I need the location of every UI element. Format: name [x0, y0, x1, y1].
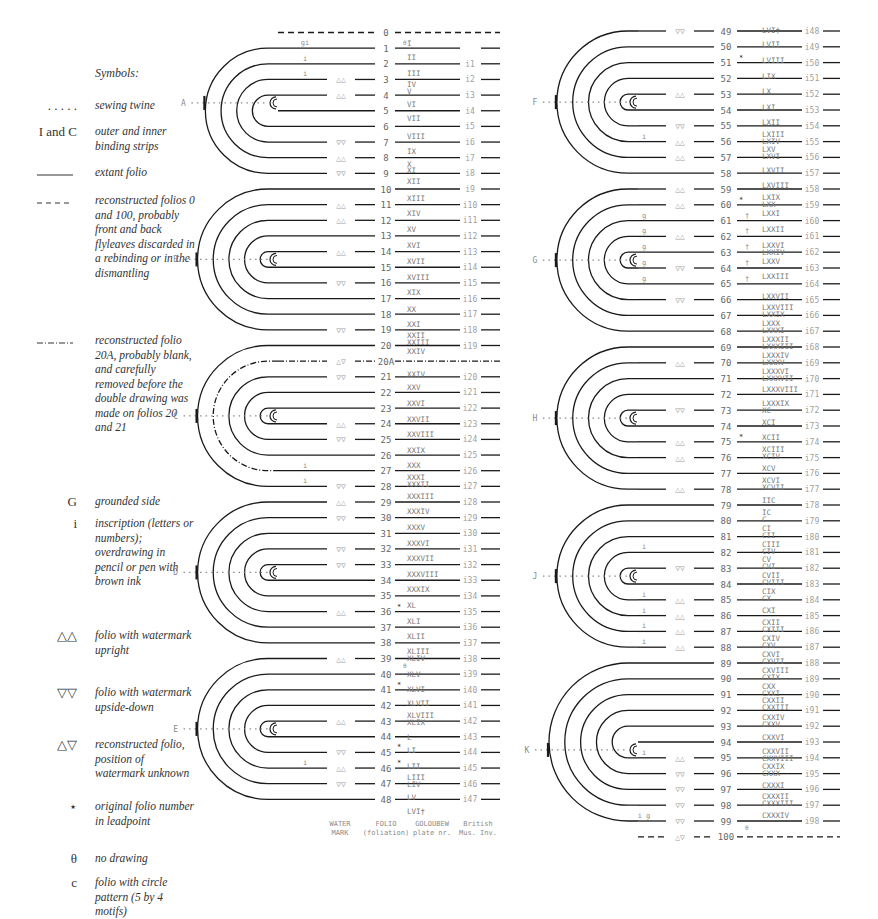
plate-number: CXI [762, 606, 776, 615]
british-museum-inventory: i91 [805, 706, 820, 715]
british-museum-inventory: i5 [465, 122, 475, 131]
folio-number: 89 [721, 659, 732, 669]
british-museum-inventory: i92 [805, 722, 820, 731]
british-museum-inventory: i65 [805, 296, 820, 305]
watermark-icon: △▽ [675, 833, 685, 842]
folio-number: 93 [721, 722, 732, 732]
gathering-label: H [532, 414, 537, 423]
folio-number: 6 [383, 122, 388, 132]
british-museum-inventory: i96 [805, 785, 820, 794]
folio-number: 16 [381, 278, 392, 288]
folio-number: 72 [721, 390, 732, 400]
folio-number: 80 [721, 516, 732, 526]
plate-number: LXVII [762, 166, 785, 175]
plate-number: XVI [407, 241, 421, 250]
british-museum-inventory: i36 [463, 623, 478, 632]
folio-number: 74 [721, 422, 732, 432]
british-museum-inventory: i24 [463, 435, 478, 444]
british-museum-inventory: i1 [465, 60, 475, 69]
folio-number: 50 [721, 42, 732, 52]
british-museum-inventory: i97 [805, 801, 820, 810]
gathering-label: G [532, 256, 537, 265]
watermark-icon: △△ [675, 485, 685, 494]
inscription-mark: i [303, 55, 307, 63]
watermark-icon: ▽▽ [675, 27, 685, 36]
plate-number: XI [407, 166, 416, 175]
british-museum-inventory: i35 [463, 608, 478, 617]
folio-number: 92 [721, 706, 732, 716]
folio-number: 84 [721, 580, 732, 590]
folio-number: 85 [721, 595, 732, 605]
watermark-icon: ▽▽ [336, 138, 346, 147]
british-museum-inventory: i98 [805, 817, 820, 826]
plate-number: CXIII [762, 625, 785, 634]
inscription-mark: i [303, 759, 307, 767]
british-museum-inventory: i42 [463, 717, 478, 726]
watermark-icon: △△ [675, 90, 685, 99]
plate-number: XXV [407, 383, 421, 392]
british-museum-inventory: i23 [463, 420, 478, 429]
plate-number: XXXIV [407, 507, 430, 516]
folio-number: 67 [721, 311, 732, 321]
folio-number: 12 [381, 216, 392, 226]
plate-number: LXXIX [762, 310, 785, 319]
british-museum-inventory: i75 [805, 454, 820, 463]
folio-number: 30 [381, 513, 392, 523]
folio-number: 7 [383, 138, 388, 148]
watermark-icon: △△ [336, 248, 346, 257]
british-museum-inventory: i68 [805, 343, 820, 352]
plate-number: I [407, 39, 412, 48]
inscription-mark: i [303, 477, 307, 485]
plate-number: XLV [407, 670, 421, 679]
plate-number: CVI [762, 562, 776, 571]
british-museum-inventory: i11 [463, 216, 478, 225]
folio-number: 4 [383, 91, 388, 101]
plate-number: CXXVI [762, 733, 785, 742]
star-icon: * [397, 759, 401, 767]
plate-number: LXXVII [762, 292, 789, 301]
british-museum-inventory: i6 [465, 138, 475, 147]
folio-number: 29 [381, 498, 392, 508]
watermark-icon: ▽▽ [336, 561, 346, 570]
folio-number: 60 [721, 200, 732, 210]
plate-number: XXXV [407, 523, 426, 532]
watermark-icon: △△ [675, 185, 685, 194]
star-icon: * [397, 603, 401, 611]
plate-number: XLVI [407, 685, 425, 694]
plate-number: XXX [407, 461, 421, 470]
watermark-icon: △△ [675, 232, 685, 241]
inscription-mark: i [303, 462, 307, 470]
plate-number: XCIV [762, 452, 781, 461]
inscription-mark: gi [301, 39, 309, 47]
british-museum-inventory: i61 [805, 232, 820, 241]
folio-number: 56 [721, 137, 732, 147]
british-museum-inventory: i4 [465, 107, 475, 116]
british-museum-inventory: i93 [805, 738, 820, 747]
folio-number: 87 [721, 627, 732, 637]
folio-number: 86 [721, 611, 732, 621]
folio-number: 62 [721, 232, 732, 242]
inscription-mark: g [642, 259, 646, 267]
plate-number: XV [407, 225, 417, 234]
british-museum-inventory: i44 [463, 748, 478, 757]
folio-number: 96 [721, 769, 732, 779]
inscription-mark: i [642, 133, 646, 141]
gathering-label: D [173, 568, 178, 577]
folio-number: 81 [721, 532, 732, 542]
folio-number: 36 [381, 607, 392, 617]
folio-number: 52 [721, 74, 732, 84]
watermark-icon: ▽▽ [675, 406, 685, 415]
plate-number: VII [407, 114, 421, 123]
watermark-icon: △△ [675, 153, 685, 162]
folio-number: 23 [381, 404, 392, 414]
watermark-icon: △△ [336, 498, 346, 507]
folio-number: 65 [721, 279, 732, 289]
inscription-mark: i [642, 622, 646, 630]
star-icon: * [739, 433, 743, 441]
plate-number: LXI [762, 103, 776, 112]
british-museum-inventory: i38 [463, 655, 478, 664]
british-museum-inventory: i30 [463, 529, 478, 538]
watermark-icon: ▽▽ [336, 326, 346, 335]
plate-number: VIII [407, 132, 425, 141]
watermark-icon: △△ [336, 655, 346, 664]
